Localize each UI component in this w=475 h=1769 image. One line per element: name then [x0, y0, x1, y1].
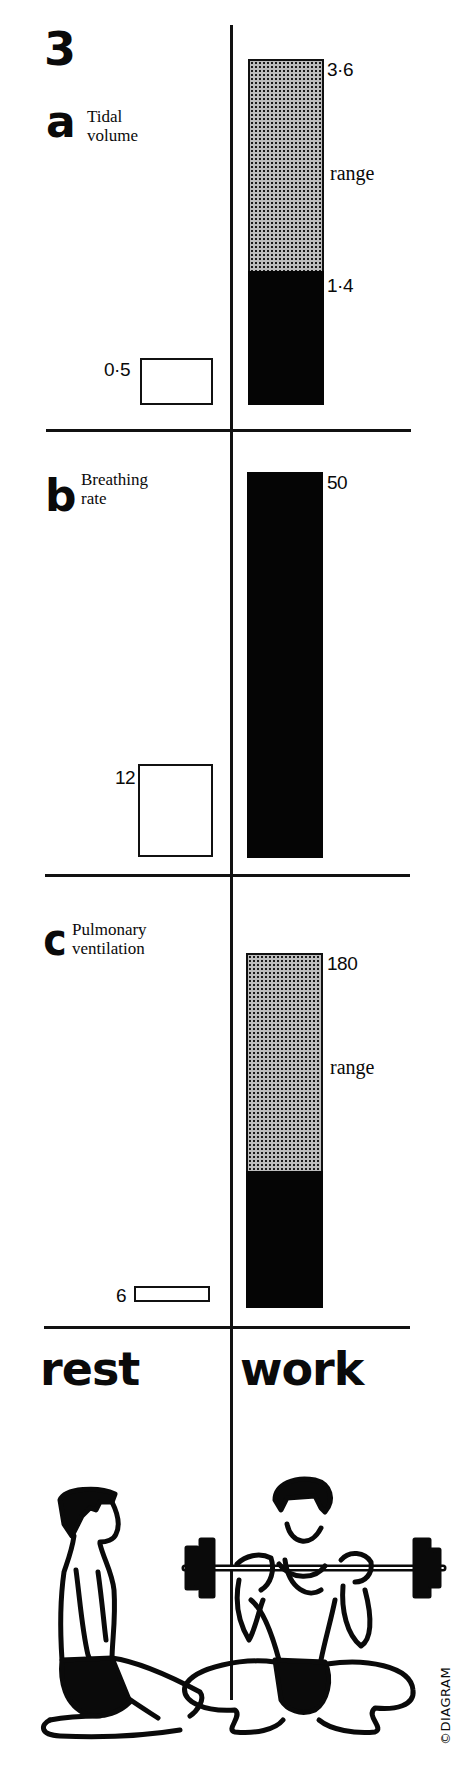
- work-range-bar: [248, 59, 324, 272]
- panel-title: Tidal volume: [87, 107, 138, 145]
- rest-value-label: 12: [115, 768, 135, 787]
- panel-divider-bc: [45, 874, 410, 877]
- rest-column-label: rest: [40, 1346, 139, 1392]
- work-bar: [247, 472, 323, 858]
- rest-value-label: 0·5: [104, 360, 130, 379]
- panel-divider-c-labels: [44, 1326, 410, 1329]
- work-base-bar: [248, 271, 324, 405]
- rest-value-label: 6: [116, 1286, 126, 1305]
- work-value-label: 50: [327, 473, 347, 492]
- copyright-notice: ©DIAGRAM: [438, 1667, 453, 1745]
- rest-bar: [134, 1286, 210, 1302]
- rest-bar: [138, 764, 213, 857]
- panel-title: Breathing rate: [81, 470, 148, 508]
- panel-letter-a: a: [46, 100, 76, 144]
- range-label: range: [330, 1057, 374, 1077]
- work-max-label: 180: [327, 954, 357, 973]
- work-column-label: work: [240, 1346, 363, 1392]
- panel-letter-b: b: [45, 474, 77, 518]
- panel-divider-ab: [46, 429, 411, 432]
- working-man-illustration: [175, 1440, 455, 1740]
- work-max-label: 3·6: [327, 60, 353, 79]
- panel-title: Pulmonary ventilation: [72, 920, 147, 958]
- rest-bar: [140, 358, 213, 405]
- work-min-label: 1·4: [327, 276, 353, 295]
- range-label: range: [330, 163, 374, 183]
- work-base-bar: [246, 1171, 323, 1308]
- panel-letter-c: c: [43, 918, 66, 962]
- figure-number: 3: [44, 26, 75, 72]
- work-range-bar: [246, 953, 323, 1172]
